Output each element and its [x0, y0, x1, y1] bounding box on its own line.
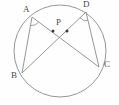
vertex-label-A: A [23, 5, 30, 14]
angle-dot-left [52, 30, 55, 33]
geometry-canvas [0, 0, 119, 105]
angle-dot-right [66, 30, 69, 33]
angle-mark-at-D [80, 18, 88, 21]
angle-mark-at-A [31, 22, 39, 25]
vertex-label-C: C [104, 60, 110, 69]
geometry-diagram: A D B C P [0, 0, 119, 105]
vertex-label-B: B [11, 71, 17, 80]
vertex-label-P: P [56, 18, 61, 27]
vertex-label-D: D [83, 0, 90, 9]
